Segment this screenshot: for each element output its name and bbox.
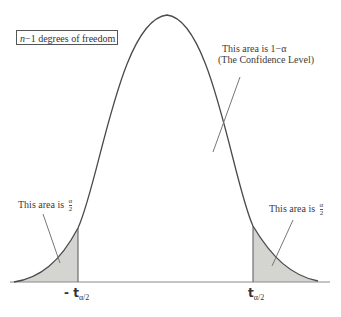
- left-tail-fraction: α2: [69, 198, 73, 213]
- center-area-line2: (The Confidence Level): [218, 54, 314, 65]
- left-tail-area: [14, 228, 78, 282]
- right-tail-area: [253, 226, 318, 282]
- center-area-label: This area is 1−α (The Confidence Level): [222, 43, 314, 65]
- right-tail-text: This area is: [269, 203, 315, 214]
- left-tail-text: This area is: [18, 199, 64, 210]
- center-pointer: [213, 77, 240, 152]
- left-tail-label: This area is α2: [18, 198, 72, 213]
- right-tail-label: This area is α2: [269, 202, 323, 217]
- left-critical-value: - tα/2: [64, 286, 89, 302]
- center-area-line1: This area is 1−α: [222, 43, 314, 54]
- df-text: −1 degrees of freedom: [25, 33, 115, 44]
- degrees-of-freedom-box: n−1 degrees of freedom: [16, 30, 118, 45]
- right-tail-pointer: [272, 220, 293, 266]
- right-tail-fraction: α2: [320, 202, 324, 217]
- right-critical-value: tα/2: [248, 286, 264, 302]
- left-tail-pointer: [43, 214, 60, 263]
